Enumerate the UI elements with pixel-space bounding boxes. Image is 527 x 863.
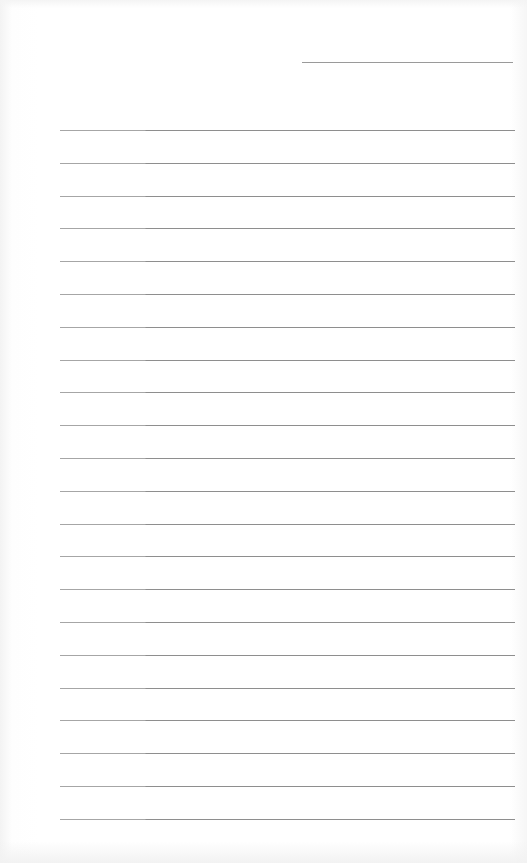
ruled-line xyxy=(60,294,515,295)
ruled-line xyxy=(60,491,515,492)
header-write-line xyxy=(302,62,513,63)
ruled-line xyxy=(60,786,515,787)
ruled-line xyxy=(60,524,515,525)
ruled-line xyxy=(60,228,515,229)
ruled-line xyxy=(60,425,515,426)
ruled-line xyxy=(60,819,515,820)
ruled-line xyxy=(60,655,515,656)
ruled-line xyxy=(60,392,515,393)
paper-bottom-edge xyxy=(0,841,527,863)
ruled-line xyxy=(60,622,515,623)
ruled-line xyxy=(60,720,515,721)
ruled-line xyxy=(60,556,515,557)
lined-paper-page xyxy=(0,0,527,863)
paper-top-edge xyxy=(0,0,527,8)
ruled-line xyxy=(60,130,515,131)
ruled-line xyxy=(60,688,515,689)
ruled-line xyxy=(60,163,515,164)
ruled-line xyxy=(60,327,515,328)
ruled-line xyxy=(60,360,515,361)
ruled-line xyxy=(60,196,515,197)
ruled-line xyxy=(60,753,515,754)
ruled-line xyxy=(60,589,515,590)
ruled-line xyxy=(60,458,515,459)
ruled-line xyxy=(60,261,515,262)
